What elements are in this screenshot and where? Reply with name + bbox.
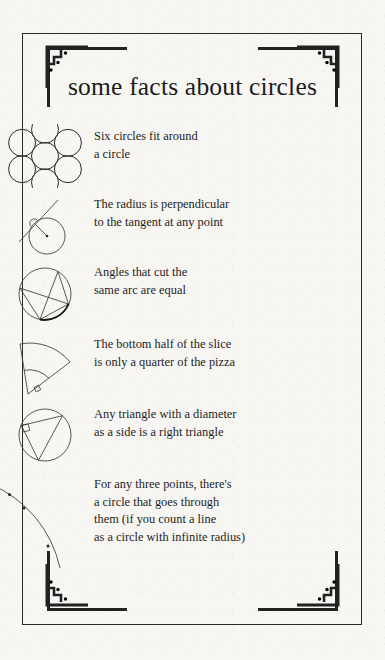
poster-page: some facts about circles: [0, 0, 385, 660]
fact-text: Six circles fit around a circle: [90, 122, 385, 163]
fact-row: The bottom half of the slice is only a q…: [0, 330, 385, 400]
fact-figure: [0, 400, 90, 468]
fact-text: Any triangle with a diameter as a side i…: [90, 400, 385, 441]
fact-text-line: them (if you count a line: [94, 511, 385, 529]
tangent-radius-perpendicular-icon: [6, 192, 84, 258]
fact-text-line: The radius is perpendicular: [94, 196, 385, 214]
fact-text-line: a circle that goes through: [94, 494, 385, 512]
fact-row: Angles that cut the same arc are equal: [0, 258, 385, 330]
fact-text-line: same arc are equal: [94, 282, 385, 300]
fact-text-line: as a side is a right triangle: [94, 424, 385, 442]
thales-right-triangle-diameter-icon: [6, 402, 84, 468]
frame-rule-bottom-right: [258, 608, 338, 611]
fact-figure: [0, 122, 90, 188]
fact-text-line: is only a quarter of the pizza: [94, 354, 385, 372]
facts-list: Six circles fit around a circle The r: [0, 122, 385, 580]
fact-figure: [0, 190, 90, 258]
fact-text-line: For any three points, there's: [94, 476, 385, 494]
inscribed-angles-same-arc-icon: [6, 260, 84, 328]
fact-figure: [0, 470, 90, 576]
fact-row: For any three points, there's a circle t…: [0, 470, 385, 580]
fact-text: The radius is perpendicular to the tange…: [90, 190, 385, 231]
fact-figure: [0, 258, 90, 328]
fact-row: Six circles fit around a circle: [0, 122, 385, 190]
seven-circles-hexagonal-packing-icon: [6, 124, 84, 188]
three-points-arc-through-icon: [0, 472, 88, 576]
fact-figure: [0, 330, 90, 398]
fact-text: The bottom half of the slice is only a q…: [90, 330, 385, 371]
fact-text-line: Any triangle with a diameter: [94, 406, 385, 424]
fact-row: Any triangle with a diameter as a side i…: [0, 400, 385, 470]
fact-text-line: as a circle with infinite radius): [94, 529, 385, 547]
frame-rule-bottom-left: [47, 608, 127, 611]
page-title: some facts about circles: [0, 72, 385, 102]
fact-row: The radius is perpendicular to the tange…: [0, 190, 385, 258]
pizza-slice-sector-halves-icon: [6, 332, 84, 398]
fact-text-line: Six circles fit around: [94, 128, 385, 146]
fact-text: For any three points, there's a circle t…: [90, 470, 385, 546]
fact-text: Angles that cut the same arc are equal: [90, 258, 385, 299]
fact-text-line: to the tangent at any point: [94, 214, 385, 232]
fact-text-line: a circle: [94, 146, 385, 164]
fact-text-line: The bottom half of the slice: [94, 336, 385, 354]
fact-text-line: Angles that cut the: [94, 264, 385, 282]
